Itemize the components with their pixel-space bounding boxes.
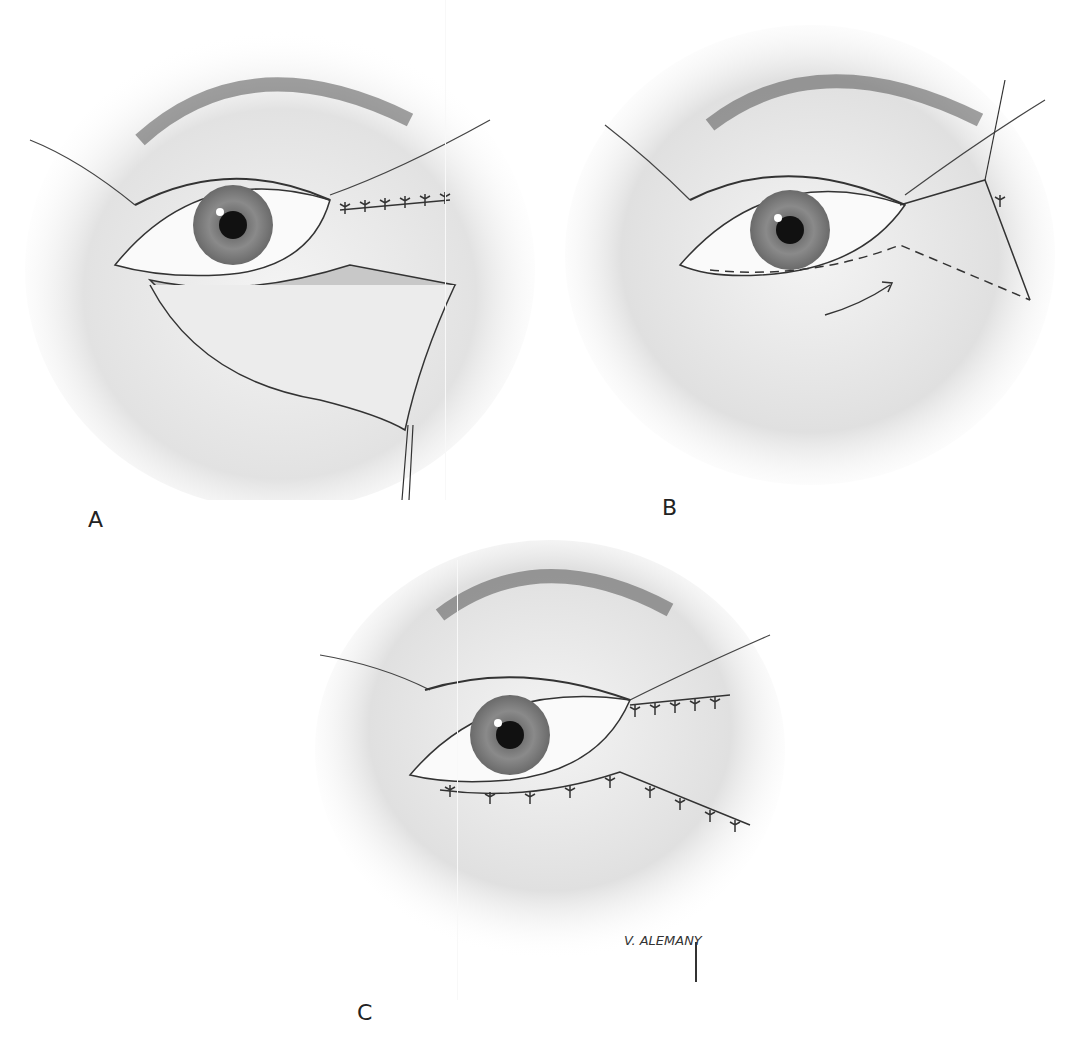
panel-b-illustration: [560, 20, 1060, 490]
signature-flourish: [695, 942, 697, 982]
artist-signature: V. ALEMANY: [624, 933, 702, 948]
scan-line-artifact: [445, 0, 446, 500]
panel-c-illustration: [310, 540, 790, 1010]
panel-c: [310, 540, 790, 1010]
panel-label-c: C: [357, 1000, 372, 1025]
scan-line-artifact: [457, 560, 458, 1000]
panel-b: [560, 20, 1060, 490]
panel-a: [20, 20, 540, 500]
panel-label-b: B: [662, 495, 677, 520]
panel-a-illustration: [20, 20, 540, 500]
panel-label-a: A: [88, 507, 103, 532]
